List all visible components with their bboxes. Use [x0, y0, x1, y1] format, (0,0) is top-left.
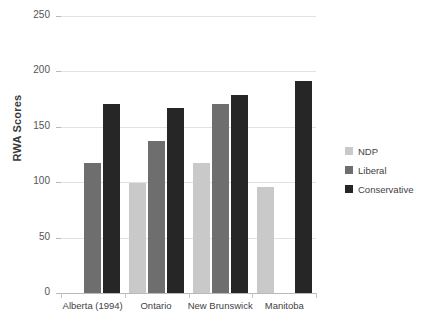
bar-slot	[103, 16, 120, 293]
y-tick-label: 150	[33, 120, 50, 131]
x-tick-mark	[316, 293, 317, 298]
bar-conservative-alberta-1994	[103, 104, 120, 293]
x-tick-mark	[125, 293, 126, 298]
x-axis-labels: Alberta (1994)OntarioNew BrunswickManito…	[61, 300, 316, 311]
bar-group	[252, 16, 316, 293]
bar-conservative-manitoba	[295, 81, 312, 293]
bar-slot	[65, 16, 82, 293]
x-axis-label: Alberta (1994)	[61, 300, 124, 311]
y-tick-label: 50	[39, 231, 50, 242]
legend: NDPLiberalConservative	[345, 143, 413, 200]
bar-liberal-alberta-1994	[84, 163, 101, 293]
bar-groups	[61, 16, 316, 293]
x-axis-label: New Brunswick	[188, 300, 253, 311]
bar-chart: RWA Scores 250200150100500 Alberta (1994…	[0, 0, 423, 324]
legend-item-liberal[interactable]: Liberal	[345, 162, 413, 178]
x-axis-label: Manitoba	[253, 300, 316, 311]
bar-slot	[193, 16, 210, 293]
x-tick-mark	[61, 293, 62, 298]
bar-group	[125, 16, 189, 293]
legend-swatch-icon	[345, 166, 353, 174]
y-axis-ticks: 250200150100500	[0, 16, 61, 293]
x-axis-label: Ontario	[124, 300, 187, 311]
bar-slot	[295, 16, 312, 293]
plot-area	[61, 16, 316, 293]
bar-slot	[148, 16, 165, 293]
legend-item-conservative[interactable]: Conservative	[345, 181, 413, 197]
legend-swatch-icon	[345, 147, 353, 155]
bar-slot	[129, 16, 146, 293]
bar-group	[61, 16, 125, 293]
bar-slot	[212, 16, 229, 293]
legend-label: Conservative	[358, 184, 413, 195]
legend-swatch-icon	[345, 185, 353, 193]
bar-liberal-ontario	[148, 141, 165, 293]
bar-ndp-ontario	[129, 183, 146, 293]
bar-liberal-new-brunswick	[212, 104, 229, 293]
bar-group	[189, 16, 253, 293]
bar-slot	[231, 16, 248, 293]
x-tick-mark	[252, 293, 253, 298]
bar-conservative-new-brunswick	[231, 95, 248, 293]
bar-slot	[84, 16, 101, 293]
legend-item-ndp[interactable]: NDP	[345, 143, 413, 159]
y-tick-label: 0	[44, 286, 50, 297]
legend-label: NDP	[358, 146, 378, 157]
y-tick-label: 100	[33, 175, 50, 186]
bar-slot	[167, 16, 184, 293]
legend-label: Liberal	[358, 165, 387, 176]
bar-slot	[276, 16, 293, 293]
bar-ndp-new-brunswick	[193, 163, 210, 293]
bar-slot	[257, 16, 274, 293]
bar-ndp-manitoba	[257, 187, 274, 293]
x-axis-ticks	[61, 293, 316, 298]
y-tick-label: 250	[33, 9, 50, 20]
y-tick-label: 200	[33, 64, 50, 75]
bar-conservative-ontario	[167, 108, 184, 293]
x-tick-mark	[189, 293, 190, 298]
